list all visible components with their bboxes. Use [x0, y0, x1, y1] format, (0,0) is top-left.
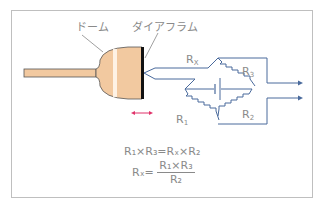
dome-leader-line [82, 35, 103, 52]
rx-label: RX [186, 54, 198, 67]
rx-formula: Rₓ= R₁×R₃ R₂ [132, 160, 195, 185]
r1-label: R1 [176, 114, 188, 127]
dome-body [96, 47, 142, 99]
rx-formula-numerator: R₁×R₃ [157, 160, 194, 173]
wiring [144, 58, 298, 124]
rx-formula-denominator: R₂ [157, 173, 194, 185]
diaphragm-plate [141, 47, 144, 99]
diaphragm-label: ダイアフラム [132, 22, 198, 33]
r3-label: R3 [242, 66, 254, 79]
r2-label: R2 [242, 109, 254, 122]
bridge-balance-equation: R₁×R₃=Rₓ×R₂ [124, 146, 200, 157]
output-arrow-bottom [298, 96, 303, 101]
stem-tube [24, 69, 96, 77]
vibration-arrow-icon [131, 111, 153, 115]
output-arrow-top [298, 81, 303, 86]
dome-highlight [113, 49, 117, 97]
dome-label: ドーム [76, 22, 109, 33]
diaphragm-leader-line [145, 33, 158, 58]
